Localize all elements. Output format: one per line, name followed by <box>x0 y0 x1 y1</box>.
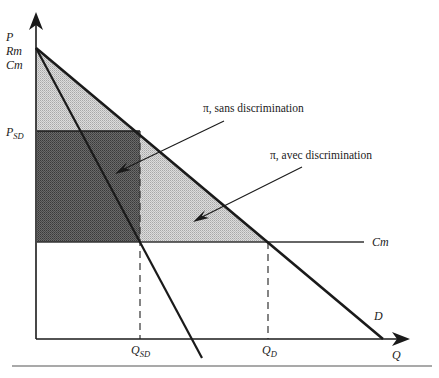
profit-avec-annotation: π, avec discrimination <box>270 149 372 162</box>
demand-label: D <box>373 309 383 323</box>
profit-sans-annotation: π, sans discrimination <box>203 102 304 115</box>
y-axis-label-rm: Rm <box>5 44 22 58</box>
q-sd-label: QSD <box>131 343 151 359</box>
p-sd-label: PSD <box>5 125 25 141</box>
profit-avec-arrow <box>200 167 302 218</box>
economics-diagram: P Rm Cm PSD Cm D Q QSD QD π, sans discri… <box>0 0 439 378</box>
y-axis-label-cm: Cm <box>6 58 23 72</box>
x-axis-label-q: Q <box>392 348 401 362</box>
q-d-label: QD <box>262 343 278 359</box>
y-axis-label-p: P <box>5 30 14 44</box>
cm-label: Cm <box>372 235 389 249</box>
